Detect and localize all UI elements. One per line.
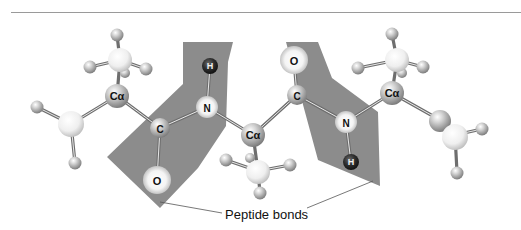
hydrogen-atom — [451, 167, 464, 180]
carbon-right: C — [287, 85, 307, 105]
callout-line-right — [307, 181, 373, 208]
hydrogen-atom — [220, 154, 233, 167]
terminal-atom — [442, 124, 468, 150]
hydrogen-label: H — [207, 61, 214, 71]
carbon-atom — [385, 48, 409, 72]
right-methyl-group — [352, 28, 430, 79]
left-methyl-group — [84, 29, 153, 79]
hydrogen-atom — [140, 63, 153, 76]
c-alpha-label: Cα — [246, 129, 261, 141]
c-alpha-middle: Cα — [241, 123, 265, 147]
oxygen-left: O — [143, 166, 171, 194]
c-alpha-label: Cα — [110, 90, 125, 102]
hydrogen-atom — [69, 157, 82, 170]
terminal-atom — [58, 111, 84, 137]
hydrogen-atom — [284, 159, 297, 172]
nitrogen-label: N — [203, 103, 210, 114]
c-alpha-right: Cα — [380, 81, 404, 105]
carbon-label: C — [293, 91, 300, 102]
peptide-bonds-caption: Peptide bonds — [225, 207, 309, 222]
callout-line-left — [160, 202, 222, 213]
right-terminal-group — [429, 110, 489, 180]
oxygen-right: O — [280, 46, 308, 74]
hydrogen-label: H — [348, 157, 355, 167]
hydrogen-atom — [476, 123, 489, 136]
nitrogen-left: N — [196, 96, 218, 118]
nitrogen-right: N — [335, 111, 357, 133]
oxygen-label: O — [290, 55, 299, 67]
left-terminal-group — [31, 101, 85, 170]
hydrogen-atom — [254, 187, 267, 200]
hydrogen-atom — [31, 101, 44, 114]
nitrogen-label: N — [342, 118, 349, 129]
c-alpha-left: Cα — [105, 84, 129, 108]
hydrogen-atom — [352, 62, 365, 75]
hydrogen-atom — [417, 61, 430, 74]
c-alpha-label: Cα — [385, 87, 400, 99]
carbon-atom — [246, 160, 270, 184]
carbon-label: C — [156, 124, 163, 135]
hydrogen-atom — [386, 28, 399, 41]
carbon-left: C — [150, 118, 170, 138]
carbon-atom — [108, 48, 132, 72]
hydrogen-atom — [84, 61, 97, 74]
hydrogen-right-amide: H — [343, 154, 359, 170]
hydrogen-atom — [111, 29, 124, 42]
hydrogen-left-amide: H — [202, 58, 218, 74]
oxygen-label: O — [153, 175, 162, 187]
peptide-bond-diagram: Cα O C H N Cα O C N — [0, 0, 521, 230]
